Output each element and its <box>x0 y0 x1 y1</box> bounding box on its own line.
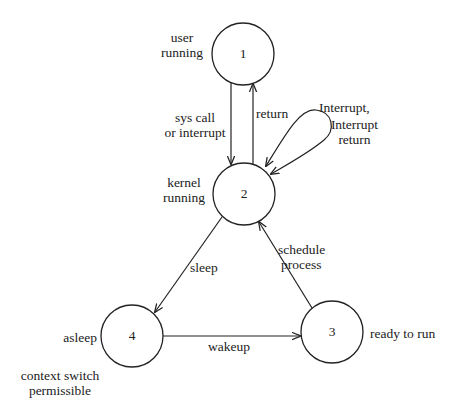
edge-sleep-label: sleep <box>190 260 218 275</box>
edge-syscall-label: sys call or interrupt <box>160 110 230 140</box>
state-3-desc: ready to run <box>370 326 435 341</box>
state-4-note-line2: permissible <box>10 383 110 398</box>
edge-syscall-label-line2: or interrupt <box>160 125 230 140</box>
edge-wakeup-label: wakeup <box>208 339 250 354</box>
state-1-desc-line1: user <box>150 30 214 45</box>
state-1-desc: user running <box>150 30 214 60</box>
state-4-note-line1: context switch <box>10 368 110 383</box>
state-4-note: context switch permissible <box>10 368 110 398</box>
edge-syscall-label-line1: sys call <box>160 110 230 125</box>
state-2-desc: kernel running <box>155 175 213 205</box>
edge-schedule-label-line1: schedule <box>278 242 325 257</box>
edge-interrupt-label-line3: return <box>327 132 382 147</box>
state-1-number: 1 <box>233 46 253 61</box>
state-4-number: 4 <box>122 328 142 343</box>
edge-interrupt-label-rest: Interrupt return <box>327 117 382 147</box>
state-2-desc-line2: running <box>155 190 213 205</box>
state-2-desc-line1: kernel <box>155 175 213 190</box>
edge-interrupt-label-line1: Interrupt, <box>319 100 370 115</box>
state-3-number: 3 <box>322 324 342 339</box>
edge-schedule-label-line2: process <box>278 257 325 272</box>
edge-schedule-label: schedule process <box>278 242 325 272</box>
edge-interrupt-label-line2: Interrupt <box>327 117 382 132</box>
state-4-desc: asleep <box>40 330 97 345</box>
state-2-number: 2 <box>234 186 254 201</box>
state-1-desc-line2: running <box>150 45 214 60</box>
edge-return-label: return <box>256 106 288 121</box>
